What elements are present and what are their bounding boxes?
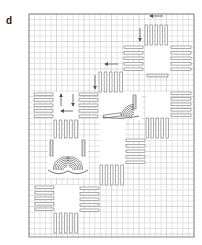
top-right-right-horizontal-bars [171,46,191,71]
bar [99,72,102,92]
bar [35,197,54,200]
bar [150,25,153,45]
bar [75,213,78,233]
bar [80,193,99,196]
bar [35,192,54,195]
bar [34,110,53,113]
top-right-bottom-strip [147,74,168,77]
bar [105,165,108,185]
bar [146,118,149,138]
bar [121,165,124,185]
bar [35,203,54,206]
bar [80,187,99,190]
bar [80,198,99,201]
bar [126,145,145,148]
bar [79,104,98,107]
bar [160,25,163,45]
bar [171,46,191,49]
bar [35,208,54,211]
bar [104,72,107,92]
bar [34,99,53,102]
bar [171,103,191,106]
bar [126,161,145,164]
center-horizontal-bars [126,139,145,164]
bar [161,118,164,138]
square-right-middle [146,92,170,118]
bar [166,118,169,138]
bar [171,57,191,60]
bar [126,156,145,159]
bar [124,63,143,66]
bar [171,68,191,71]
bar [59,120,62,138]
bar [79,93,98,96]
bar [64,120,67,138]
bar [124,68,143,71]
bar [75,120,78,138]
bar [59,213,62,233]
bar [34,115,53,118]
bar [171,109,191,112]
bar [124,57,143,60]
bar [110,165,113,185]
bar [171,98,191,101]
bar [79,99,98,102]
bar [54,213,57,233]
bar [34,104,53,107]
bar [116,165,119,185]
bar [100,165,103,185]
bar [54,120,57,138]
bar [64,213,67,233]
bar [171,63,191,66]
bar [171,52,191,55]
square-top-right [145,45,170,74]
square-left [54,92,79,120]
bar [109,72,112,92]
middle-vertical-bars [99,72,122,92]
bar [171,92,191,95]
bar [120,72,123,92]
bar [126,139,145,142]
bar [79,110,98,113]
bar [126,150,145,153]
bar [34,93,53,96]
bar [70,120,73,138]
bar [70,213,73,233]
bar [156,118,159,138]
pattern-layout-diagram [0,0,202,245]
bar [171,114,191,117]
square-bottom-left [54,185,80,213]
bar [124,52,143,55]
bar [151,118,154,138]
top-right-vertical-bars [145,25,168,45]
bar [80,209,99,212]
bar [115,72,118,92]
bar [145,25,148,45]
bar [79,115,98,118]
bar [165,25,168,45]
bar [35,186,54,189]
bar [124,46,143,49]
square-center [100,120,125,165]
bar [80,204,99,207]
bar [155,25,158,45]
